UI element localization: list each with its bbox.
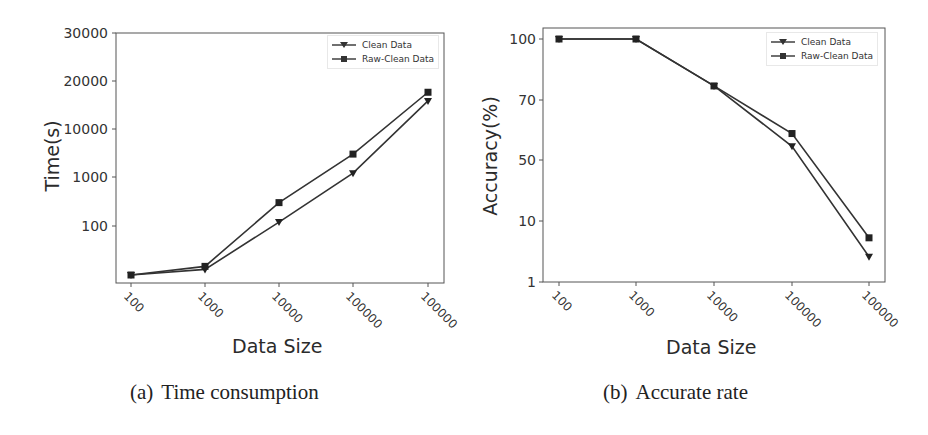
svg-text:10000: 10000 [704,288,741,325]
svg-text:10000: 10000 [269,289,306,326]
svg-text:100: 100 [81,218,108,234]
svg-text:20000: 20000 [63,73,108,89]
svg-text:70: 70 [518,92,536,108]
caption-label: (a) [130,380,153,404]
svg-text:1000: 1000 [626,288,657,319]
triangle-marker-icon [332,41,356,49]
square-marker-icon [332,55,356,63]
svg-text:1000: 1000 [195,289,226,320]
y-axis-label: Time(s) [41,120,63,191]
svg-text:30000: 30000 [63,25,108,41]
svg-text:1: 1 [527,274,536,290]
x-axis-label: Data Size [666,336,756,358]
legend-item-raw-clean: Raw-Clean Data [771,49,873,63]
figure-caption: (b)Accurate rate [603,380,748,405]
legend: Clean Data Raw-Clean Data [327,35,439,69]
svg-text:100: 100 [509,31,536,47]
svg-text:100000: 100000 [859,288,901,330]
triangle-marker-icon [771,38,795,46]
caption-text: Time consumption [161,380,318,404]
figure-caption: (a)Time consumption [130,380,319,405]
caption-label: (b) [603,380,628,404]
svg-text:50: 50 [518,152,536,168]
legend-label: Clean Data [801,35,851,49]
square-marker-icon [771,52,795,60]
legend-label: Raw-Clean Data [801,49,873,63]
y-axis-label: Accuracy(%) [479,96,501,216]
x-axis-label: Data Size [232,335,322,357]
svg-text:100: 100 [549,288,575,314]
legend-label: Clean Data [362,38,412,52]
legend-item-raw-clean: Raw-Clean Data [332,52,434,66]
svg-text:100: 100 [121,289,147,315]
svg-text:100000: 100000 [782,288,824,330]
time-consumption-figure: 1001000100002000030000100100010000100000… [0,0,464,435]
svg-text:10: 10 [518,213,536,229]
svg-text:100000: 100000 [418,289,460,331]
legend-item-clean: Clean Data [332,38,434,52]
svg-text:1000: 1000 [72,169,108,185]
legend-label: Raw-Clean Data [362,52,434,66]
svg-text:100000: 100000 [343,289,385,331]
legend-item-clean: Clean Data [771,35,873,49]
legend: Clean Data Raw-Clean Data [766,32,878,66]
caption-text: Accurate rate [636,380,749,404]
accurate-rate-figure: 1105070100100100010000100000100000 Accur… [464,0,928,435]
svg-text:10000: 10000 [63,121,108,137]
